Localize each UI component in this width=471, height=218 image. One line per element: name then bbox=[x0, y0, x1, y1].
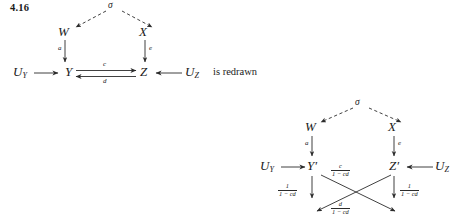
node-UZ-base: U bbox=[185, 64, 194, 79]
node-Zprime-redrawn: Z′ bbox=[389, 159, 399, 172]
node-Z-original: Z bbox=[140, 65, 147, 78]
fraction-right-denominator: 1 − cd bbox=[400, 190, 419, 198]
node-UY-original: UY bbox=[13, 65, 27, 80]
node-Y-original: Y bbox=[65, 65, 72, 78]
node-UY-redrawn: UY bbox=[260, 159, 274, 174]
node-X-original: X bbox=[139, 25, 147, 38]
fraction-d-numerator: d bbox=[331, 201, 350, 208]
original-dashed-arrows bbox=[0, 0, 200, 95]
node-Zprime-mark: ′ bbox=[396, 158, 399, 173]
node-UZ-subscript: Z bbox=[195, 71, 199, 80]
fraction-right-vertical: 1 1 − cd bbox=[400, 180, 419, 198]
original-commutative-diagram: σ bbox=[0, 0, 200, 95]
node-UZ-redrawn: UZ bbox=[435, 159, 449, 174]
node-Yprime-redrawn: Y′ bbox=[307, 159, 317, 172]
node-W-redrawn: W bbox=[305, 120, 316, 133]
edge-label-a-redrawn: a bbox=[305, 140, 309, 147]
node-UZ-subscript-redrawn: Z bbox=[445, 165, 449, 174]
edge-label-c-original: c bbox=[103, 61, 106, 68]
fraction-c-denominator: 1 − cd bbox=[331, 170, 350, 178]
node-UY-subscript: Y bbox=[23, 71, 27, 80]
node-UY-base: U bbox=[13, 64, 22, 79]
edge-label-d-original: d bbox=[103, 78, 107, 85]
node-Yprime-mark: ′ bbox=[314, 158, 317, 173]
edge-label-a-original: a bbox=[58, 45, 62, 52]
figure-canvas: 4.16 σ bbox=[0, 0, 471, 218]
fraction-diagonal-d: d 1 − cd bbox=[331, 198, 350, 216]
edge-label-e-redrawn: e bbox=[398, 140, 401, 147]
redrawn-commutative-diagram: σ bbox=[245, 98, 471, 218]
fraction-left-vertical: 1 1 − cd bbox=[278, 180, 297, 198]
fraction-right-numerator: 1 bbox=[400, 183, 419, 190]
node-UY-base-redrawn: U bbox=[260, 158, 269, 173]
node-W-original: W bbox=[58, 25, 69, 38]
node-UZ-original: UZ bbox=[185, 65, 199, 80]
fraction-left-numerator: 1 bbox=[278, 183, 297, 190]
node-X-redrawn: X bbox=[388, 120, 396, 133]
fraction-left-denominator: 1 − cd bbox=[278, 190, 297, 198]
connective-text: is redrawn bbox=[213, 66, 257, 77]
edge-label-e-original: e bbox=[149, 45, 152, 52]
fraction-diagonal-c: c 1 − cd bbox=[331, 160, 350, 178]
fraction-d-denominator: 1 − cd bbox=[331, 208, 350, 216]
fraction-c-numerator: c bbox=[331, 163, 350, 170]
node-UY-subscript-redrawn: Y bbox=[270, 165, 274, 174]
node-UZ-base-redrawn: U bbox=[435, 158, 444, 173]
